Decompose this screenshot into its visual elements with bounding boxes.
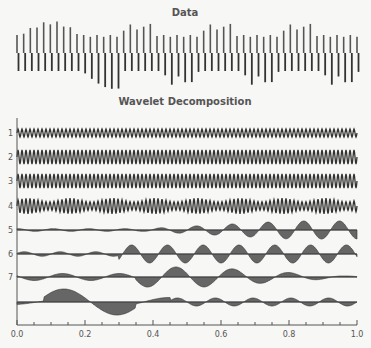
decomp-row-3: 3 [8,174,357,188]
decomp-row-5: 5 [8,221,357,239]
x-tick-label: 0.2 [79,330,92,339]
wavelet-chart: Data Wavelet Decomposition 1234567 0.00.… [0,0,371,348]
decomp-row-7: 7 [8,267,357,287]
data-title: Data [172,7,199,18]
decomp-row-1: 1 [8,129,357,138]
data-signal [17,22,359,89]
decomposition-title: Wavelet Decomposition [118,96,251,107]
x-tick-label: 0.8 [283,330,296,339]
decomp-row-4: 4 [8,198,357,214]
decomp-row-8 [17,289,357,315]
row-label: 1 [8,129,13,138]
row-label: 4 [8,202,13,211]
x-tick-label: 0.0 [11,330,24,339]
x-tick-label: 1.0 [351,330,364,339]
x-tick-label: 0.4 [147,330,160,339]
decomp-row-6: 6 [8,245,357,263]
decomposition-rows: 1234567 [8,129,357,315]
row-label: 3 [8,177,13,186]
x-tick-label: 0.6 [215,330,228,339]
decomp-row-2: 2 [8,150,357,164]
row-label: 2 [8,153,13,162]
row-label: 5 [8,226,13,235]
row-label: 6 [8,250,13,259]
row-label: 7 [8,273,13,282]
